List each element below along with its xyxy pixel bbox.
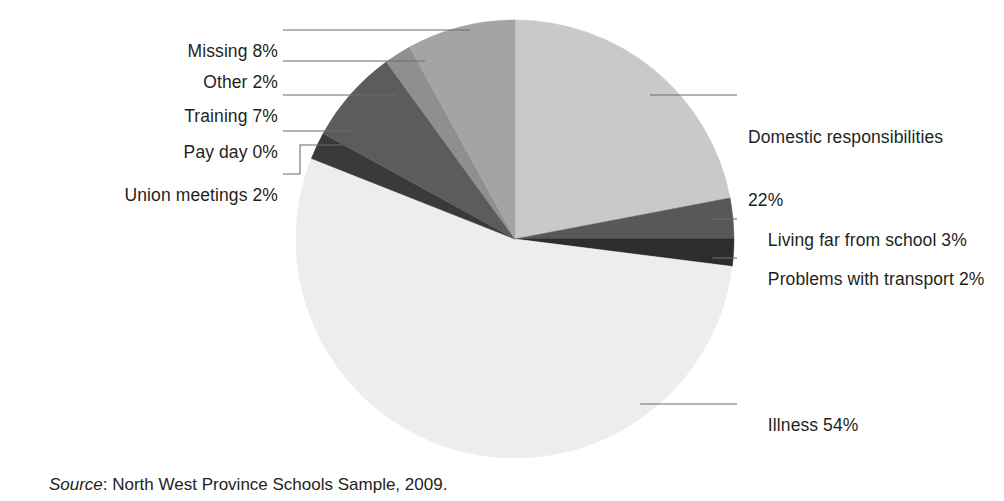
pie-label-union-meetings-text: Union meetings 2% <box>125 185 278 205</box>
pie-label-problems-with-transport: Problems with transport 2% <box>748 248 998 311</box>
pie-label-domestic-line1: Domestic responsibilities <box>748 127 998 148</box>
pie-label-pay-day-text: Pay day 0% <box>184 142 278 162</box>
pie-slices <box>296 20 734 458</box>
pie-label-problems-transport-text: Problems with transport 2% <box>768 269 985 289</box>
source-text: : North West Province Schools Sample, 20… <box>103 475 448 494</box>
pie-chart-figure: Missing 8% Other 2% Training 7% Pay day … <box>0 0 1004 501</box>
pie-label-illness-text: Illness 54% <box>768 415 859 435</box>
pie-label-illness: Illness 54% <box>748 394 998 457</box>
pie-label-domestic-line2: 22% <box>748 190 998 211</box>
source-note: Source: North West Province Schools Samp… <box>30 455 447 501</box>
source-prefix: Source <box>49 475 103 494</box>
pie-label-living-far-text: Living far from school 3% <box>768 230 967 250</box>
pie-label-union-meetings: Union meetings 2% <box>0 164 278 227</box>
